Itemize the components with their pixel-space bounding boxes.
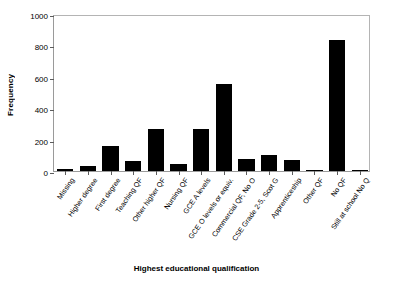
y-axis-title: Frequency [6,60,20,130]
x-axis-tick [65,171,66,175]
bar [102,146,118,171]
plot-inner: 02004006008001000MissingHigher degreeFir… [54,16,369,171]
bar [284,160,300,171]
x-axis-tick [292,171,293,175]
y-axis-tick [50,16,54,17]
x-axis-tick-label: Other QF [301,176,326,206]
bar [216,84,232,171]
y-axis-tick [50,47,54,48]
x-axis-tick [179,171,180,175]
bar [261,155,277,171]
x-axis-tick [314,171,315,175]
x-axis-tick [201,171,202,175]
x-axis-tick-label: No QF [329,176,349,199]
x-axis-tick [360,171,361,175]
y-axis-tick-label: 200 [35,137,48,146]
bar [170,164,186,171]
x-axis-tick [246,171,247,175]
x-axis-tick [269,171,270,175]
y-axis-tick-label: 400 [35,106,48,115]
x-axis-label-wrap: Missing [55,176,76,201]
x-axis-tick [224,171,225,175]
y-axis-tick-label: 600 [35,74,48,83]
x-axis-tick [133,171,134,175]
x-axis-tick-label: Missing [55,176,76,201]
x-axis-title: Highest educational qualification [0,264,393,273]
y-axis-tick-label: 1000 [30,12,48,21]
y-axis-tick [50,110,54,111]
plot-area: 02004006008001000MissingHigher degreeFir… [53,15,370,172]
x-axis-tick [88,171,89,175]
bar [193,129,209,171]
x-axis-label-wrap: No QF [329,176,349,199]
bar [329,40,345,171]
y-axis-tick-label: 0 [44,169,48,178]
x-axis-tick [156,171,157,175]
bar [238,159,254,171]
bar [125,161,141,171]
y-axis-tick [50,173,54,174]
bar [148,129,164,171]
x-axis-tick [337,171,338,175]
y-axis-tick-label: 800 [35,43,48,52]
x-axis-label-wrap: Other QF [301,176,326,206]
y-axis-tick [50,79,54,80]
x-axis-tick [111,171,112,175]
y-axis-tick [50,142,54,143]
bar-chart-figure: Frequency 02004006008001000MissingHigher… [0,0,393,281]
